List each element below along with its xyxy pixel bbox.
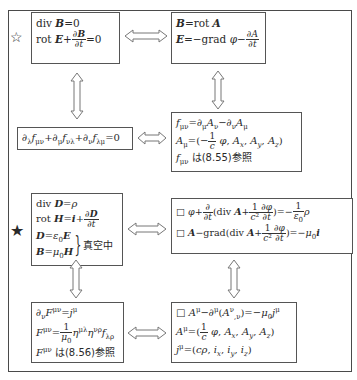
double-arrow-vertical-icon (211, 70, 225, 110)
double-arrow-vertical-icon (70, 72, 84, 120)
box-potentials: B=rot A E=−grad φ−∂A∂t B=rot A (171, 12, 266, 64)
box-maxwell-homogeneous: div B=0 rot E+∂B∂t=0 div B=0 (31, 12, 120, 64)
box-covariant-maxwell: ∂νFμν=jμ Fμν=1μ0ημληνρfλρ Fμν は(8.56)参照 (31, 302, 124, 363)
double-arrow-vertical-icon (69, 259, 83, 299)
reference-8-55: は(8.55)参照 (192, 152, 252, 163)
white-star-icon: ☆ (10, 30, 23, 44)
black-star-icon: ★ (10, 223, 24, 239)
double-arrow-horizontal-icon (127, 222, 167, 236)
double-arrow-horizontal-icon (124, 29, 168, 43)
double-arrow-vertical-icon (227, 259, 241, 299)
box-covariant-potential: □ Aμ−∂μ(Aν,ν)=−μ0jμ Aμ=(1c φ, Ax, Ay, Az… (171, 302, 297, 363)
brace-icon: } (75, 234, 82, 256)
box-maxwell-sources: div D=ρ rot H=i+∂D∂t D=ε0E B=μ0H } 真空中 (31, 193, 123, 266)
vacuum-label: 真空中 (83, 239, 113, 252)
box-potential-equations: □ φ+∂∂t(div A+1c²∂φ∂t)=−1ε0ρ □ A−grad(di… (171, 198, 353, 254)
reference-8-56: は(8.56)参照 (55, 347, 115, 358)
box-bianchi-identity: ∂λfμν+∂μfνλ+∂νfλμ=0 ∂λ fμν+∂μ fνλ+∂ν fλμ… (17, 127, 133, 150)
double-arrow-horizontal-icon (127, 326, 167, 340)
double-arrow-horizontal-icon (137, 131, 167, 145)
box-field-tensor: fμν=∂μAν−∂νAμ Aμ=(−1c φ, Ax, Ay, Az) fμν… (171, 112, 302, 172)
